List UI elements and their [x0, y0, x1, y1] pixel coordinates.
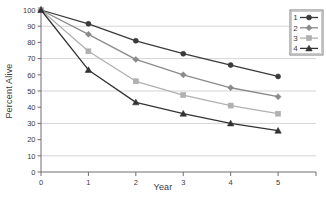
data-point-s1-x1	[86, 21, 91, 26]
y-axis-tick-label: 80	[27, 38, 35, 47]
data-point-s3-x5	[276, 111, 281, 116]
x-axis-tick-label: 2	[134, 178, 138, 187]
y-axis-tick-label: 70	[27, 54, 35, 63]
y-axis-tick-label: 10	[27, 152, 35, 161]
data-point-s2-x3	[180, 72, 186, 78]
legend-label-1: 1	[293, 13, 298, 22]
legend-label-3: 3	[293, 34, 298, 43]
data-point-s3-x1	[86, 49, 91, 54]
data-point-s1-x4	[228, 63, 233, 68]
chart-container: Percent Alive Year 010203040506070809010…	[0, 0, 326, 199]
legend-label-2: 2	[293, 24, 298, 33]
y-axis-tick-label: 50	[27, 87, 35, 96]
y-axis-tick-label: 20	[27, 135, 35, 144]
data-point-s2-x4	[228, 85, 234, 91]
y-axis-tick-label: 100	[23, 6, 36, 15]
y-axis-tick-label: 40	[27, 103, 35, 112]
data-point-s3-x3	[181, 93, 186, 98]
data-point-s2-x1	[85, 31, 91, 37]
data-point-s3-x2	[133, 79, 138, 84]
data-point-s4-x2	[133, 99, 139, 105]
x-axis-tick-label: 3	[181, 178, 185, 187]
x-axis-tick-label: 0	[39, 178, 43, 187]
data-point-s1-x2	[133, 38, 138, 43]
legend-label-4: 4	[293, 44, 298, 53]
legend-marker-1	[307, 15, 312, 20]
series-line-2	[41, 10, 278, 97]
data-point-s1-x3	[181, 51, 186, 56]
y-axis-tick-label: 0	[31, 168, 35, 177]
data-point-s3-x4	[228, 103, 233, 108]
x-axis-tick-label: 5	[276, 178, 280, 187]
x-axis-tick-label: 4	[229, 178, 233, 187]
data-point-s1-x5	[276, 74, 281, 79]
series-line-3	[41, 10, 278, 114]
plot-area: 01020304050607080901000123451234	[0, 0, 326, 199]
y-axis-tick-label: 90	[27, 22, 35, 31]
data-point-s2-x2	[133, 56, 139, 62]
data-point-s2-x5	[275, 94, 281, 100]
y-axis-tick-label: 60	[27, 71, 35, 80]
y-axis-tick-label: 30	[27, 119, 35, 128]
legend-marker-3	[307, 36, 312, 41]
x-axis-tick-label: 1	[86, 178, 90, 187]
